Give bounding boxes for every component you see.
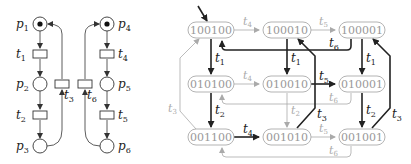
svg-text:t6: t6 — [87, 88, 97, 104]
state-001100: 001100 — [188, 129, 234, 145]
svg-text:t4: t4 — [243, 122, 253, 138]
svg-text:t6: t6 — [329, 36, 339, 52]
svg-text:p5: p5 — [118, 77, 131, 93]
svg-text:t2: t2 — [215, 103, 225, 119]
svg-text:p6: p6 — [118, 139, 131, 155]
svg-text:t4: t4 — [118, 47, 128, 63]
svg-text:t1: t1 — [291, 51, 301, 67]
place-p3: p3 — [16, 139, 47, 155]
svg-text:t2: t2 — [366, 103, 376, 119]
svg-text:t1: t1 — [215, 51, 225, 67]
diagram-canvas: p1 p2 p3 p4 p5 p6 t1 t2 — [0, 0, 411, 164]
transition-t2: t2 — [16, 108, 47, 124]
svg-text:t5: t5 — [319, 122, 328, 136]
transition-t1: t1 — [16, 47, 47, 63]
arc-t3-p1 — [48, 24, 62, 79]
state-100100: 100100 — [188, 22, 234, 38]
reachability-graph: t4 t5 t6 t1 t1 t1 t4 t5 t6 t2 t2 t2 t4 t… — [168, 6, 402, 158]
svg-text:010010: 010010 — [266, 78, 308, 91]
svg-text:t3: t3 — [392, 107, 402, 123]
arc-t6-p4 — [85, 24, 99, 79]
transition-t6: t6 — [78, 80, 97, 104]
svg-text:t5: t5 — [319, 69, 329, 85]
place-p4: p4 — [100, 17, 131, 33]
svg-text:p2: p2 — [16, 77, 29, 93]
initial-state-arrow — [198, 6, 207, 21]
place-p2: p2 — [16, 77, 47, 93]
svg-text:001100: 001100 — [190, 131, 232, 144]
svg-text:001010: 001010 — [266, 131, 308, 144]
svg-text:t3: t3 — [64, 88, 74, 104]
place-p5: p5 — [100, 77, 131, 93]
state-100001: 100001 — [339, 22, 385, 38]
svg-text:t5: t5 — [319, 15, 328, 29]
svg-text:t3: t3 — [317, 107, 327, 123]
transition-t5: t5 — [100, 108, 128, 124]
svg-text:100100: 100100 — [190, 24, 232, 37]
state-100010: 100010 — [263, 22, 311, 38]
svg-text:t6: t6 — [329, 91, 338, 105]
token-icon — [104, 21, 109, 26]
svg-text:010100: 010100 — [190, 78, 232, 91]
petri-net: p1 p2 p3 p4 p5 p6 t1 t2 — [16, 17, 131, 155]
svg-text:t4: t4 — [243, 69, 252, 83]
place-p1: p1 — [16, 17, 47, 33]
transition-t4: t4 — [100, 47, 128, 63]
svg-text:100010: 100010 — [266, 24, 308, 37]
svg-text:t4: t4 — [243, 15, 252, 29]
transition-t3: t3 — [55, 80, 74, 104]
svg-text:p3: p3 — [16, 139, 29, 155]
arc-p3-t3 — [47, 90, 62, 146]
svg-text:t2: t2 — [16, 108, 26, 124]
place-p6: p6 — [100, 139, 131, 155]
svg-text:t3: t3 — [168, 102, 177, 116]
svg-text:010001: 010001 — [341, 78, 383, 91]
svg-text:t1: t1 — [16, 47, 26, 63]
svg-text:001001: 001001 — [341, 131, 383, 144]
state-010001: 010001 — [339, 76, 385, 92]
state-010010: 010010 — [263, 76, 311, 92]
svg-text:t5: t5 — [118, 108, 128, 124]
token-icon — [37, 21, 42, 26]
svg-text:t1: t1 — [366, 51, 376, 67]
state-001010: 001010 — [263, 129, 311, 145]
svg-text:t6: t6 — [329, 144, 338, 158]
svg-text:100001: 100001 — [341, 24, 383, 37]
state-010100: 010100 — [188, 76, 234, 92]
svg-text:p1: p1 — [16, 17, 29, 33]
state-001001: 001001 — [339, 129, 385, 145]
svg-text:t2: t2 — [291, 104, 300, 118]
svg-text:p4: p4 — [118, 17, 131, 33]
